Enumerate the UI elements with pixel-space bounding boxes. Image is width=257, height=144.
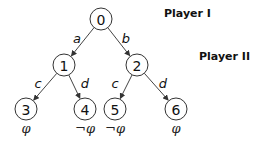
tree-node-1: 1 <box>53 54 75 76</box>
node-label: 2 <box>133 58 142 74</box>
player-label-2: Player II <box>199 50 250 63</box>
tree-node-2: 2 <box>126 54 148 76</box>
leaf-formula-label: ¬φ <box>105 121 126 136</box>
node-label: 6 <box>172 102 181 118</box>
edge-label: c <box>34 76 41 91</box>
edge-1-4 <box>69 75 80 98</box>
node-label: 5 <box>111 102 120 118</box>
tree-node-5: 5¬φ <box>104 98 126 136</box>
leaf-formula-label: φ <box>21 121 31 136</box>
game-tree-diagram: abcdcd 0123φ4¬φ5¬φ6φ Player IPlayer II <box>0 0 257 144</box>
tree-node-4: 4¬φ <box>74 98 96 136</box>
leaf-formula-label: φ <box>171 121 181 136</box>
player-label-1: Player I <box>164 7 211 20</box>
leaf-formula-label: ¬φ <box>75 121 96 136</box>
node-label: 0 <box>97 12 106 28</box>
node-label: 1 <box>60 58 69 74</box>
edge-label: a <box>73 31 81 46</box>
node-label: 3 <box>22 102 31 118</box>
node-label: 4 <box>81 102 90 118</box>
edge-label: c <box>111 76 118 91</box>
edge-label: d <box>81 76 90 91</box>
tree-node-3: 3φ <box>15 98 37 136</box>
game-tree-svg: abcdcd 0123φ4¬φ5¬φ6φ <box>0 0 257 144</box>
tree-node-0: 0 <box>90 8 112 30</box>
tree-node-6: 6φ <box>165 98 187 136</box>
edge-label: d <box>159 76 168 91</box>
edge-label: b <box>122 31 130 46</box>
edge-2-5 <box>120 75 132 98</box>
nodes: 0123φ4¬φ5¬φ6φ <box>15 8 187 136</box>
